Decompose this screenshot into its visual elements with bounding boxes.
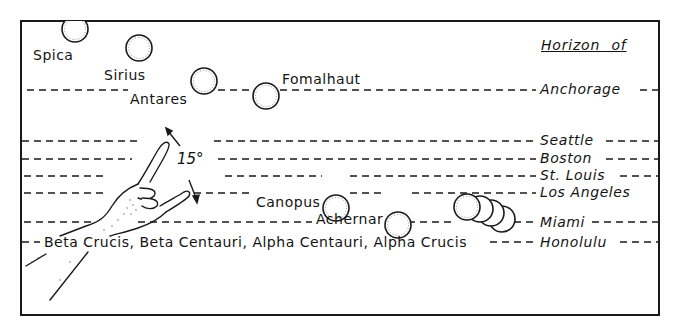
city-label-honolulu: Honolulu [540,234,607,250]
southern-cross-label: Beta Crucis, Beta Centauri, Alpha Centau… [44,234,467,250]
star-sirius-icon [126,35,152,61]
star-label-fomalhaut: Fomalhaut [282,71,361,87]
star-spica-icon [62,16,88,42]
hand-icon [26,142,190,300]
star-antares-icon [191,68,217,94]
city-label-boston: Boston [540,150,592,166]
city-label-los-angeles: Los Angeles [540,184,630,200]
star-label-sirius: Sirius [104,67,146,83]
star-label-antares: Antares [130,91,187,107]
star-label-canopus: Canopus [256,194,320,210]
city-label-seattle: Seattle [540,132,594,148]
city-label-miami: Miami [540,214,585,230]
city-label-anchorage: Anchorage [540,81,621,97]
star-label-achernar: Achernar [316,211,383,227]
city-label-st-louis: St. Louis [540,167,605,183]
star-fomalhaut-icon [253,83,279,109]
horizon-header: Horizon of [541,37,626,53]
star-beta-crucis-icon [454,194,480,220]
angle-label: 15° [177,150,204,168]
star-label-spica: Spica [33,47,73,63]
